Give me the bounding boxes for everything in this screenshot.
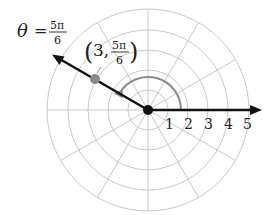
polar-coordinate-diagram: 1 2 3 4 5 θ = 5π 6 ( 3, 5π 6 ) [0, 0, 275, 215]
ray-label-numerator: 5π [50, 19, 64, 32]
ray-label: θ = 5π 6 [17, 19, 67, 47]
axis-label-4: 4 [224, 116, 233, 132]
axis-label-1: 1 [165, 116, 174, 132]
pole-point [143, 105, 153, 115]
point-label-leader [97, 67, 101, 73]
ray-label-equals: = [34, 21, 47, 40]
axis-label-3: 3 [204, 116, 213, 132]
point-label-numerator: 5π [112, 39, 126, 52]
point-3-5pi-6 [90, 74, 100, 84]
axis-labels: 1 2 3 4 5 [165, 116, 252, 132]
point-label-denominator: 6 [116, 54, 123, 67]
polar-axis-arrowhead-icon [250, 105, 262, 115]
ray-label-denominator: 6 [54, 34, 61, 47]
axis-label-2: 2 [184, 116, 193, 132]
axis-label-5: 5 [243, 116, 252, 132]
point-label-close-paren: ) [129, 38, 138, 66]
point-label-open-paren: ( [84, 38, 93, 66]
point-label-r: 3, [93, 40, 109, 60]
ray-label-theta: θ [17, 20, 28, 41]
